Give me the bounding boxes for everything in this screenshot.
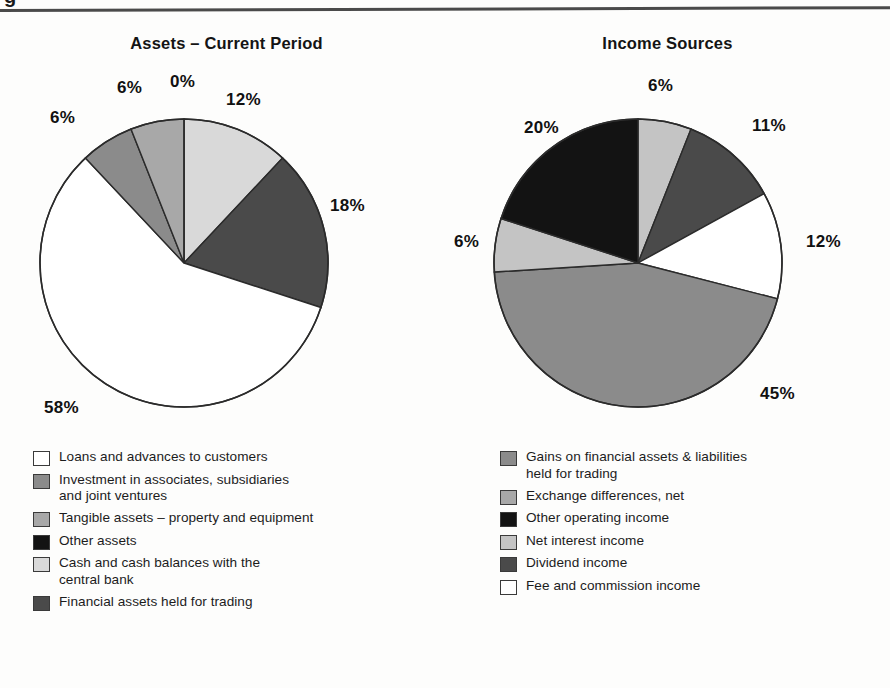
- income-legend-swatch-0: [500, 451, 517, 466]
- assets-legend-swatch-3: [33, 535, 50, 550]
- assets-legend-label-5: Financial assets held for trading: [59, 594, 253, 611]
- income-legend-item[interactable]: Exchange differences, net: [500, 488, 890, 505]
- assets-legend-item[interactable]: Tangible assets – property and equipment: [33, 510, 433, 527]
- income-percent-label-1: 11%: [752, 116, 786, 136]
- assets-percent-label-5: 58%: [44, 398, 79, 418]
- income-percent-label-2: 20%: [524, 118, 559, 138]
- income-percent-label-3: 12%: [806, 232, 841, 252]
- assets-legend-item[interactable]: Cash and cash balances with thecentral b…: [33, 555, 433, 588]
- income-legend-item[interactable]: Other operating income: [500, 510, 890, 527]
- assets-percent-label-1: 0%: [170, 72, 195, 92]
- income-percent-label-5: 45%: [760, 384, 795, 404]
- income-legend-label-2: Other operating income: [526, 510, 669, 527]
- chart-page: g Assets – Current Period 6%0%12%6%18%58…: [0, 0, 890, 688]
- income-legend-label-1: Exchange differences, net: [526, 488, 684, 505]
- assets-legend-item[interactable]: Other assets: [33, 533, 433, 550]
- income-legend-label-0-line2: held for trading: [526, 466, 747, 483]
- income-percent-label-0: 6%: [648, 76, 673, 96]
- income-legend-label-3: Net interest income: [526, 533, 644, 550]
- income-legend-swatch-2: [500, 512, 517, 527]
- assets-legend-label-1: Investment in associates, subsidiariesan…: [59, 472, 289, 505]
- assets-legend-label-4: Cash and cash balances with thecentral b…: [59, 555, 260, 588]
- income-legend-item[interactable]: Net interest income: [500, 533, 890, 550]
- assets-percent-label-4: 18%: [330, 196, 365, 216]
- income-chart-title: Income Sources: [445, 34, 890, 53]
- income-legend-item[interactable]: Gains on financial assets & liabilitiesh…: [500, 449, 890, 482]
- income-legend: Gains on financial assets & liabilitiesh…: [500, 449, 890, 600]
- assets-legend-swatch-4: [33, 557, 50, 572]
- assets-legend-swatch-0: [33, 451, 50, 466]
- assets-legend-label-4-line2: central bank: [59, 572, 260, 589]
- assets-legend-item[interactable]: Investment in associates, subsidiariesan…: [33, 472, 433, 505]
- assets-pie-chart: [38, 117, 330, 409]
- income-legend-swatch-3: [500, 535, 517, 550]
- income-pie-svg: [492, 117, 784, 409]
- assets-legend-swatch-5: [33, 596, 50, 611]
- income-legend-label-4: Dividend income: [526, 555, 627, 572]
- assets-legend-item[interactable]: Financial assets held for trading: [33, 594, 433, 611]
- income-legend-swatch-4: [500, 557, 517, 572]
- assets-legend: Loans and advances to customersInvestmen…: [33, 449, 433, 616]
- assets-percent-label-3: 6%: [50, 108, 75, 128]
- income-legend-swatch-1: [500, 490, 517, 505]
- income-percent-label-4: 6%: [454, 232, 479, 252]
- assets-legend-label-2: Tangible assets – property and equipment: [59, 510, 313, 527]
- income-legend-item[interactable]: Fee and commission income: [500, 578, 890, 595]
- assets-legend-swatch-1: [33, 474, 50, 489]
- assets-legend-label-3: Other assets: [59, 533, 137, 550]
- income-legend-item[interactable]: Dividend income: [500, 555, 890, 572]
- income-pie-chart: [492, 117, 784, 409]
- assets-legend-item[interactable]: Loans and advances to customers: [33, 449, 433, 466]
- assets-chart-title: Assets – Current Period: [0, 34, 449, 53]
- assets-percent-label-0: 6%: [117, 78, 142, 98]
- income-legend-label-0: Gains on financial assets & liabilitiesh…: [526, 449, 747, 482]
- assets-percent-label-2: 12%: [226, 90, 261, 110]
- assets-pie-svg: [38, 117, 330, 409]
- income-legend-label-5: Fee and commission income: [526, 578, 700, 595]
- income-legend-swatch-5: [500, 580, 517, 595]
- assets-legend-label-1-line2: and joint ventures: [59, 488, 289, 505]
- assets-legend-swatch-2: [33, 512, 50, 527]
- assets-legend-label-0: Loans and advances to customers: [59, 449, 268, 466]
